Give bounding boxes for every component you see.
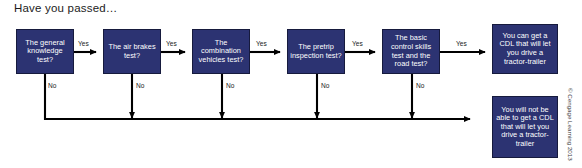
edge-label-yes-2: Yes <box>166 40 177 47</box>
node-outcome-pass[interactable]: You can get a CDL that will let you driv… <box>492 24 558 74</box>
edge-label-yes-3: Yes <box>256 40 267 47</box>
node-air-brakes-test[interactable]: The air brakes test? <box>103 29 161 74</box>
flowchart-canvas: Have you passed… The general knowledge t… <box>0 0 582 168</box>
node-pretrip-inspection-test[interactable]: The pretrip inspection test? <box>287 29 345 74</box>
node-outcome-fail[interactable]: You will not be able to get a CDL that w… <box>492 96 558 158</box>
edge-label-yes-4: Yes <box>352 40 363 47</box>
copyright-notice: © Cengage Learning 2013 <box>567 88 574 161</box>
node-basic-control-road-test[interactable]: The basic control skills test and the ro… <box>382 29 440 74</box>
node-label: The general knowledge test? <box>19 39 71 65</box>
edge-label-yes-5: Yes <box>456 40 467 47</box>
edge-label-yes-1: Yes <box>78 40 89 47</box>
edge-label-no-5: No <box>416 82 424 89</box>
edge-label-no-3: No <box>226 82 234 89</box>
page-title: Have you passed… <box>14 2 118 14</box>
node-combination-vehicles-test[interactable]: The combination vehicles test? <box>192 29 250 74</box>
node-label: You can get a CDL that will let you driv… <box>495 32 555 66</box>
node-label: The pretrip inspection test? <box>290 43 342 60</box>
node-label: The basic control skills test and the ro… <box>385 34 437 68</box>
no-edge-1 <box>45 74 470 119</box>
node-label: You will not be able to get a CDL that w… <box>495 106 555 149</box>
node-label: The air brakes test? <box>106 43 158 60</box>
node-general-knowledge-test[interactable]: The general knowledge test? <box>16 29 74 74</box>
node-label: The combination vehicles test? <box>195 39 247 65</box>
edge-label-no-4: No <box>321 82 329 89</box>
edge-label-no-2: No <box>136 82 144 89</box>
edge-label-no-1: No <box>48 82 56 89</box>
